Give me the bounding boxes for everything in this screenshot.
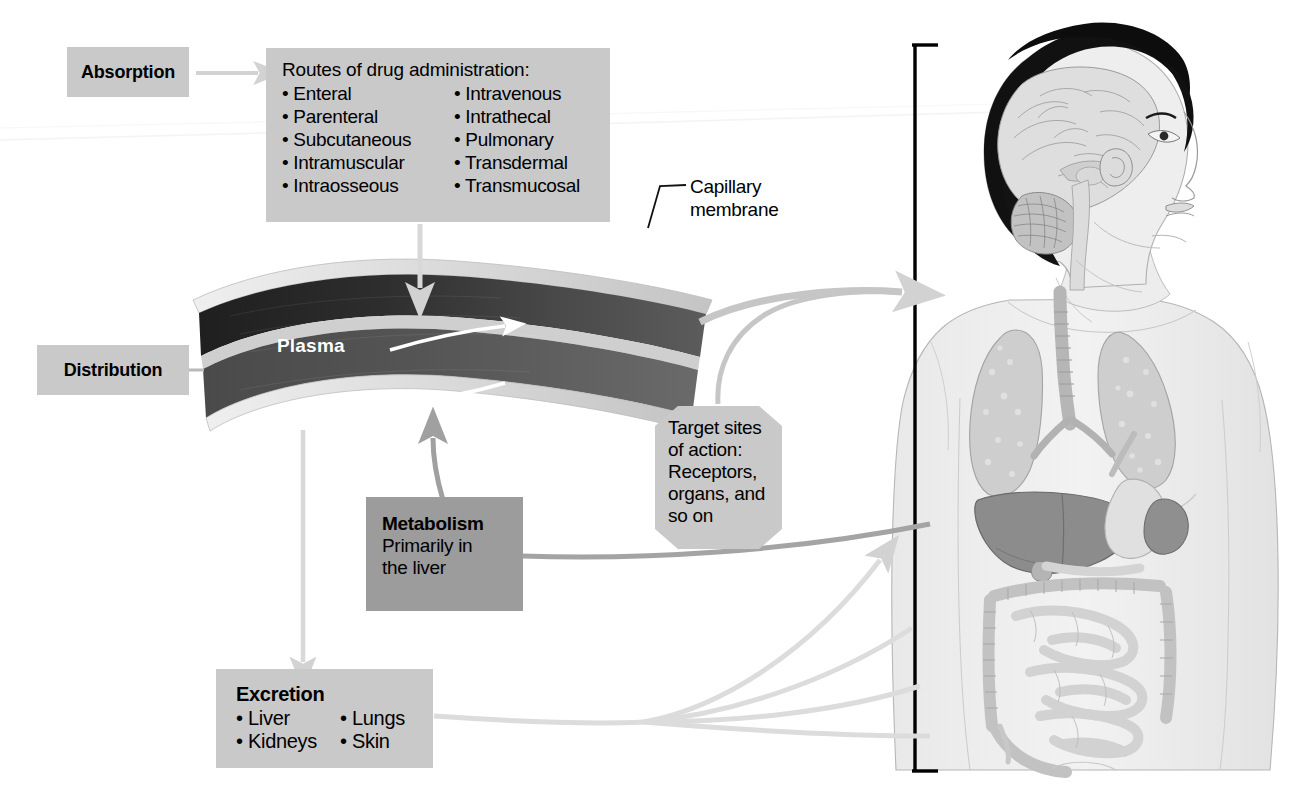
routes-header: Routes of drug administration: [282, 59, 610, 81]
plasma-to-body-arrow [700, 291, 902, 322]
plasma-label: Plasma [277, 335, 345, 357]
route-item: • Subcutaneous [282, 128, 454, 151]
routes-of-administration-box: Routes of drug administration: • Enteral… [266, 48, 610, 222]
human-body-illustration [892, 23, 1278, 772]
target-sites-text: Target sites of action: Receptors, organ… [655, 406, 782, 527]
capillary-membrane-line1: Capillary [690, 176, 778, 199]
excretion-item: • Lungs [340, 707, 433, 730]
capillary-membrane-label: Capillary membrane [690, 176, 778, 222]
target-sites-octagon: Target sites of action: Receptors, organ… [655, 406, 782, 549]
absorption-label-box: Absorption [67, 47, 189, 97]
diagram-canvas: Absorption Routes of drug administration… [0, 0, 1305, 799]
target-line5: so on [668, 505, 782, 527]
route-item: • Transmucosal [454, 174, 610, 197]
target-line4: organs, and [668, 483, 782, 505]
route-item: • Pulmonary [454, 128, 610, 151]
capillary-vessel [177, 259, 721, 431]
distribution-label: Distribution [64, 360, 163, 381]
capillary-membrane-line2: membrane [690, 199, 778, 222]
excretion-title: Excretion [236, 683, 433, 706]
route-item: • Transdermal [454, 151, 610, 174]
route-item: • Enteral [282, 82, 454, 105]
routes-list: • Enteral • Intravenous • Parenteral • I… [282, 82, 610, 197]
metabolism-line1: Primarily in [382, 535, 523, 557]
route-item: • Parenteral [282, 105, 454, 128]
target-line1: Target sites [668, 417, 782, 439]
distribution-label-box: Distribution [37, 345, 189, 395]
metabolism-box: Metabolism Primarily in the liver [366, 497, 523, 611]
excretion-item: • Skin [340, 730, 433, 753]
diagram-artwork [0, 0, 1305, 799]
absorption-label: Absorption [81, 62, 175, 83]
route-item: • Intrathecal [454, 105, 610, 128]
target-line2: of action: [668, 439, 782, 461]
excretion-box: Excretion • Liver • Lungs • Kidneys • Sk… [216, 669, 433, 768]
capillary-leader-line [648, 185, 686, 228]
route-item: • Intraosseous [282, 174, 454, 197]
metabolism-title: Metabolism [382, 513, 523, 535]
excretion-item: • Liver [236, 707, 340, 730]
metabolism-line2: the liver [382, 557, 523, 579]
excretion-item: • Kidneys [236, 730, 340, 753]
excretion-list: • Liver • Lungs • Kidneys • Skin [236, 707, 433, 753]
route-item: • Intravenous [454, 82, 610, 105]
metabolism-arrow [433, 438, 443, 500]
target-line3: Receptors, [668, 461, 782, 483]
route-item: • Intramuscular [282, 151, 454, 174]
